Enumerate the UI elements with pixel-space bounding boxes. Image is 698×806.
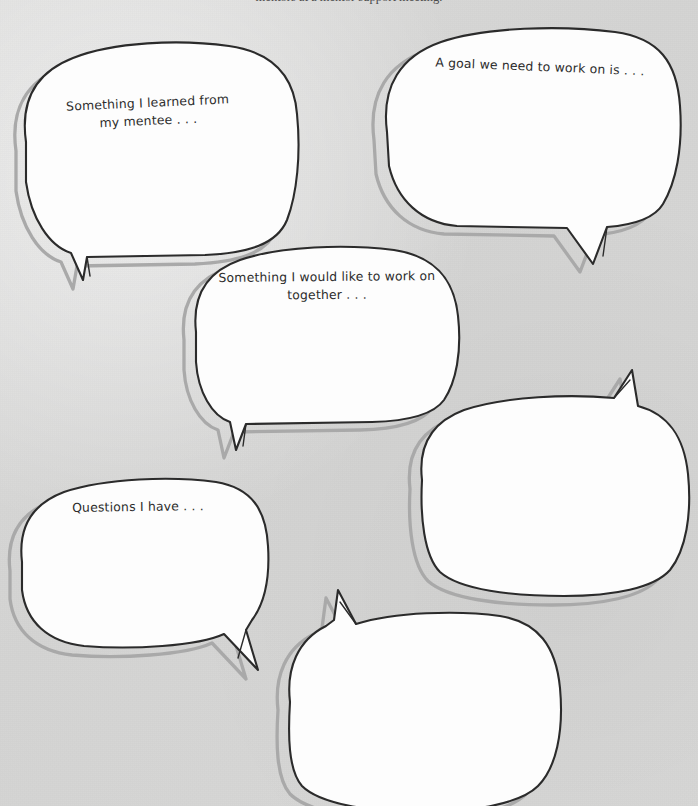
speech-bubble-goal-to-work-on[interactable]: A goal we need to work on is . . . — [365, 16, 685, 276]
speech-bubble-work-on-together[interactable]: Something I would like to work on togeth… — [178, 238, 478, 458]
page-caption-text: mentors at a mentor support meeting. — [0, 0, 698, 4]
page-caption: mentors at a mentor support meeting. — [0, 0, 698, 13]
speech-bubble-questions-i-have[interactable]: Questions I have . . . — [6, 472, 278, 690]
speech-bubble-blank-bottom[interactable] — [268, 586, 568, 806]
worksheet-page: mentors at a mentor support meeting. Som… — [0, 0, 698, 806]
